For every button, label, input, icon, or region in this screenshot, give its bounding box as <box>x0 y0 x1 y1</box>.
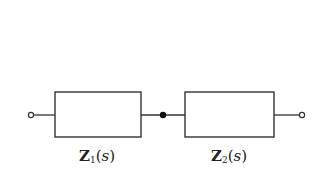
circuit-diagram <box>0 0 333 181</box>
label-z1: Z1(s) <box>79 147 115 165</box>
input-terminal <box>28 112 33 117</box>
block-z1 <box>55 92 141 137</box>
paren-close: ) <box>241 147 247 165</box>
junction-dot <box>160 112 166 118</box>
block-z2 <box>185 92 274 137</box>
label-z2-symbol: Z <box>211 147 222 165</box>
paren-close: ) <box>109 147 115 165</box>
output-terminal <box>299 112 304 117</box>
label-z1-symbol: Z <box>79 147 90 165</box>
label-z2: Z2(s) <box>211 147 247 165</box>
